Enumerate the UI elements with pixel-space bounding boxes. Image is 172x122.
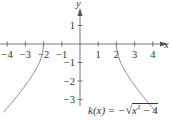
svg-text:−3: −3: [20, 49, 31, 60]
svg-text:−1: −1: [64, 57, 75, 68]
equation-label: k(x) = −√x2 − 4: [88, 103, 158, 118]
svg-text:4: 4: [150, 49, 156, 60]
equation-rest: − 4: [140, 104, 157, 116]
svg-text:−3: −3: [64, 94, 75, 105]
svg-text:−2: −2: [64, 76, 75, 87]
svg-text:−2: −2: [38, 49, 49, 60]
y-axis-arrow-icon: [78, 8, 83, 16]
svg-text:−4: −4: [2, 49, 14, 60]
y-axis-label: y: [75, 0, 81, 9]
x-axis-label: x: [163, 39, 169, 50]
equation-lhs: k(x) = −: [88, 104, 125, 116]
svg-text:1: 1: [96, 49, 101, 60]
svg-text:1: 1: [70, 20, 75, 31]
svg-text:3: 3: [132, 49, 137, 60]
